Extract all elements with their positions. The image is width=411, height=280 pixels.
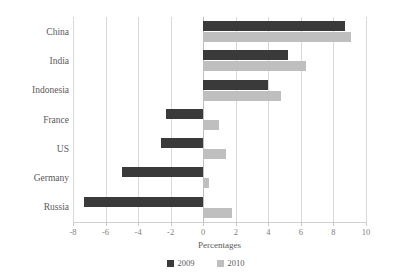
category-label: India [3,56,69,66]
bar-group [73,163,366,192]
bar-group [73,17,366,46]
x-tick-label: 10 [362,228,371,237]
x-tick-label: -8 [69,228,76,237]
bar-group [73,193,366,222]
bar-2009 [203,80,268,90]
category-label: US [3,144,69,154]
x-tick-mark [268,222,269,226]
x-tick-mark [301,222,302,226]
category-axis-labels: ChinaIndiaIndonesiaFranceUSGermanyRussia [0,17,69,222]
legend-label: 2009 [178,259,195,268]
bar-2009 [84,197,203,207]
bar-chart: -8-6-4-20246810 ChinaIndiaIndonesiaFranc… [0,0,411,280]
bar-2009 [203,21,345,31]
bar-group [73,105,366,134]
legend-label: 2010 [228,259,245,268]
x-tick-label: 4 [266,228,270,237]
category-label: Russia [3,202,69,212]
bar-2010 [203,91,281,101]
x-tick-label: 6 [299,228,303,237]
x-tick-mark [106,222,107,226]
bar-group [73,134,366,163]
gridline [366,17,367,222]
bar-2009 [161,138,203,148]
bar-2010 [203,149,226,159]
legend-swatch-icon [167,260,174,267]
category-label: China [3,27,69,37]
legend-item[interactable]: 2009 [167,259,195,268]
x-tick-label: -2 [167,228,174,237]
x-axis-line [73,222,366,223]
x-tick-label: 0 [201,228,205,237]
bar-2009 [166,109,203,119]
x-tick-label: 8 [331,228,335,237]
bar-2010 [203,178,209,188]
x-tick-label: -4 [135,228,142,237]
x-tick-mark [333,222,334,226]
bar-2010 [203,61,306,71]
bar-2010 [203,208,231,218]
chart-legend: 20092010 [0,259,411,268]
bars-layer [73,17,366,222]
bar-group [73,46,366,75]
x-tick-label: 2 [234,228,238,237]
category-label: France [3,115,69,125]
x-tick-mark [171,222,172,226]
bar-group [73,76,366,105]
bar-2010 [203,120,219,130]
x-tick-mark [73,222,74,226]
x-tick-mark [138,222,139,226]
legend-swatch-icon [217,260,224,267]
bar-2009 [122,167,203,177]
legend-item[interactable]: 2010 [217,259,245,268]
category-label: Germany [3,173,69,183]
x-tick-mark [203,222,204,226]
x-tick-label: -6 [102,228,109,237]
bar-2009 [203,50,288,60]
category-label: Indonesia [3,85,69,95]
x-axis-title: Percentages [73,240,366,250]
x-tick-mark [366,222,367,226]
x-tick-mark [236,222,237,226]
bar-2010 [203,32,351,42]
